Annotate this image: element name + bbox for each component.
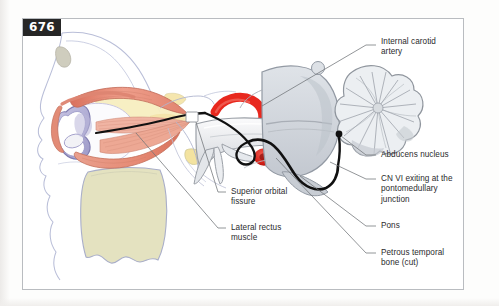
label-petrous-temporal-bone: Petrous temporal bone (cut) (381, 248, 444, 269)
figure-page: 676 (0, 0, 499, 306)
cerebellum (335, 66, 423, 157)
label-abducens-nucleus: Abducens nucleus (381, 150, 449, 160)
label-pons: Pons (381, 221, 400, 231)
label-cn-vi-exiting: CN VI exiting at the pontomedullary junc… (381, 174, 453, 205)
label-lateral-rectus-muscle: Lateral rectus muscle (231, 223, 281, 244)
superior-orbital-fissure-marker (186, 112, 198, 122)
label-superior-orbital-fissure: Superior orbital fissure (231, 187, 287, 208)
label-internal-carotid-artery: Internal carotid artery (381, 37, 436, 58)
maxillary-bone-block (81, 168, 167, 264)
